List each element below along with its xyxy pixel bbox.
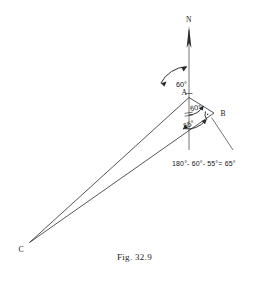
bearing-arc-arrow-right-icon	[181, 66, 187, 71]
line-b-to-c	[30, 113, 215, 243]
angle-dot-at-b	[207, 114, 208, 115]
label-bearing-angle-60: 60°	[176, 80, 187, 89]
figure-caption: Fig. 32.9	[0, 252, 269, 262]
label-point-b: B	[221, 109, 226, 118]
geometry-diagram: A B C N 60° 60° 55° 180°- 60°- 55°= 65°	[0, 0, 269, 283]
line-a-to-c	[30, 98, 190, 243]
label-interior-angle-60: 60°	[190, 103, 202, 113]
arc-hash-mark-2	[185, 115, 193, 116]
label-north: N	[186, 15, 192, 24]
label-angle-equation: 180°- 60°- 55°= 65°	[172, 160, 236, 167]
leader-line-to-equation	[212, 118, 234, 151]
figure-container: A B C N 60° 60° 55° 180°- 60°- 55°= 65° …	[0, 0, 269, 283]
